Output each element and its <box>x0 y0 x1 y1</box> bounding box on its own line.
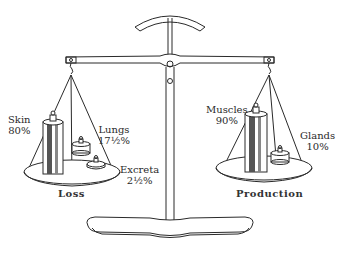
handle-stem <box>168 18 172 58</box>
skin-value: 80% <box>8 125 31 136</box>
loss-title: Loss <box>58 188 85 199</box>
skin-label: Skin 80% <box>8 114 31 136</box>
excreta-value: 2½% <box>120 175 159 186</box>
base <box>87 217 253 236</box>
production-title: Production <box>236 188 303 199</box>
glands-weight <box>271 146 289 165</box>
lungs-weight <box>72 137 90 156</box>
lungs-label: Lungs 17½% <box>98 124 130 146</box>
muscles-value: 90% <box>206 115 248 126</box>
balance-scale-diagram: Skin 80% Lungs 17½% Excreta 2½% Loss Mus… <box>0 0 344 256</box>
excreta-label: Excreta 2½% <box>120 164 159 186</box>
excreta-name: Excreta <box>120 164 159 175</box>
muscles-name: Muscles <box>206 104 248 115</box>
handle-arc <box>135 16 205 31</box>
glands-value: 10% <box>300 141 335 152</box>
scale-drawing <box>0 0 344 256</box>
muscles-label: Muscles 90% <box>206 104 248 126</box>
lungs-value: 17½% <box>98 135 130 146</box>
center-post <box>166 67 174 222</box>
muscles-weight <box>245 103 267 172</box>
skin-name: Skin <box>8 114 31 125</box>
beam <box>66 54 274 67</box>
skin-weight <box>43 111 63 174</box>
left-pan <box>24 160 120 184</box>
glands-name: Glands <box>300 130 335 141</box>
lungs-name: Lungs <box>98 124 130 135</box>
glands-label: Glands 10% <box>300 130 335 152</box>
